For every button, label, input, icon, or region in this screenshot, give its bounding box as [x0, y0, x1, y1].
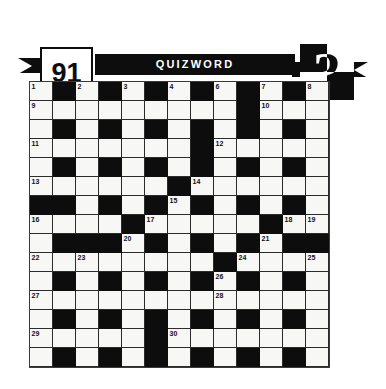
crossword-cell[interactable] [53, 291, 76, 310]
crossword-cell[interactable]: 13 [30, 177, 53, 196]
crossword-cell[interactable] [214, 158, 237, 177]
crossword-cell[interactable]: 18 [283, 215, 306, 234]
crossword-cell[interactable]: 28 [214, 291, 237, 310]
crossword-cell[interactable] [214, 101, 237, 120]
crossword-cell[interactable] [306, 310, 329, 329]
crossword-cell[interactable] [214, 310, 237, 329]
crossword-cell[interactable] [283, 329, 306, 348]
crossword-cell[interactable]: 8 [306, 82, 329, 101]
crossword-cell[interactable] [168, 158, 191, 177]
crossword-cell[interactable] [30, 348, 53, 367]
crossword-cell[interactable] [260, 253, 283, 272]
crossword-cell[interactable] [306, 158, 329, 177]
crossword-cell[interactable] [283, 139, 306, 158]
crossword-cell[interactable] [76, 310, 99, 329]
crossword-cell[interactable] [237, 329, 260, 348]
crossword-cell[interactable] [76, 196, 99, 215]
crossword-cell[interactable] [30, 272, 53, 291]
crossword-cell[interactable] [76, 101, 99, 120]
crossword-cell[interactable] [306, 139, 329, 158]
crossword-cell[interactable] [237, 291, 260, 310]
crossword-cell[interactable]: 20 [122, 234, 145, 253]
crossword-cell[interactable] [122, 329, 145, 348]
crossword-cell[interactable] [30, 158, 53, 177]
crossword-cell[interactable] [76, 120, 99, 139]
crossword-cell[interactable] [53, 177, 76, 196]
crossword-cell[interactable] [76, 158, 99, 177]
crossword-cell[interactable] [76, 139, 99, 158]
crossword-cell[interactable] [260, 310, 283, 329]
crossword-cell[interactable] [99, 215, 122, 234]
crossword-cell[interactable]: 15 [168, 196, 191, 215]
crossword-cell[interactable] [122, 139, 145, 158]
crossword-cell[interactable] [30, 234, 53, 253]
crossword-cell[interactable] [145, 139, 168, 158]
crossword-cell[interactable] [122, 196, 145, 215]
crossword-cell[interactable] [53, 253, 76, 272]
crossword-cell[interactable] [214, 177, 237, 196]
crossword-cell[interactable] [214, 120, 237, 139]
crossword-cell[interactable] [122, 101, 145, 120]
crossword-cell[interactable] [283, 291, 306, 310]
crossword-cell[interactable] [30, 120, 53, 139]
crossword-cell[interactable] [191, 329, 214, 348]
crossword-cell[interactable]: 1 [30, 82, 53, 101]
crossword-cell[interactable] [99, 139, 122, 158]
crossword-cell[interactable]: 10 [260, 101, 283, 120]
crossword-cell[interactable] [122, 177, 145, 196]
crossword-cell[interactable] [168, 120, 191, 139]
crossword-cell[interactable] [168, 310, 191, 329]
crossword-cell[interactable]: 14 [191, 177, 214, 196]
crossword-cell[interactable] [306, 120, 329, 139]
crossword-cell[interactable] [191, 101, 214, 120]
crossword-cell[interactable] [53, 139, 76, 158]
crossword-cell[interactable] [237, 139, 260, 158]
crossword-cell[interactable] [99, 253, 122, 272]
crossword-cell[interactable] [306, 329, 329, 348]
crossword-cell[interactable] [168, 215, 191, 234]
crossword-cell[interactable]: 21 [260, 234, 283, 253]
crossword-cell[interactable] [191, 291, 214, 310]
crossword-cell[interactable] [53, 101, 76, 120]
crossword-cell[interactable] [168, 272, 191, 291]
crossword-cell[interactable] [168, 139, 191, 158]
crossword-cell[interactable] [76, 177, 99, 196]
crossword-cell[interactable] [145, 253, 168, 272]
crossword-cell[interactable] [76, 348, 99, 367]
crossword-cell[interactable] [99, 177, 122, 196]
crossword-cell[interactable] [122, 253, 145, 272]
crossword-cell[interactable] [168, 101, 191, 120]
crossword-cell[interactable]: 26 [214, 272, 237, 291]
crossword-cell[interactable] [260, 329, 283, 348]
crossword-cell[interactable] [260, 272, 283, 291]
crossword-cell[interactable]: 19 [306, 215, 329, 234]
crossword-cell[interactable] [122, 310, 145, 329]
crossword-cell[interactable] [122, 291, 145, 310]
crossword-cell[interactable] [168, 234, 191, 253]
crossword-cell[interactable] [260, 348, 283, 367]
crossword-cell[interactable] [145, 291, 168, 310]
crossword-cell[interactable]: 3 [122, 82, 145, 101]
crossword-cell[interactable] [191, 215, 214, 234]
crossword-cell[interactable] [283, 253, 306, 272]
crossword-cell[interactable] [214, 196, 237, 215]
crossword-cell[interactable] [260, 158, 283, 177]
crossword-cell[interactable]: 17 [145, 215, 168, 234]
crossword-cell[interactable] [306, 101, 329, 120]
crossword-cell[interactable]: 30 [168, 329, 191, 348]
crossword-cell[interactable]: 25 [306, 253, 329, 272]
crossword-cell[interactable]: 24 [237, 253, 260, 272]
crossword-cell[interactable] [122, 348, 145, 367]
crossword-cell[interactable] [191, 253, 214, 272]
crossword-cell[interactable]: 12 [214, 139, 237, 158]
crossword-cell[interactable] [214, 234, 237, 253]
crossword-cell[interactable] [122, 120, 145, 139]
crossword-cell[interactable] [145, 101, 168, 120]
crossword-cell[interactable] [99, 101, 122, 120]
crossword-cell[interactable] [260, 177, 283, 196]
crossword-cell[interactable]: 16 [30, 215, 53, 234]
crossword-cell[interactable] [30, 310, 53, 329]
crossword-cell[interactable] [214, 329, 237, 348]
crossword-cell[interactable] [283, 101, 306, 120]
crossword-cell[interactable]: 6 [214, 82, 237, 101]
